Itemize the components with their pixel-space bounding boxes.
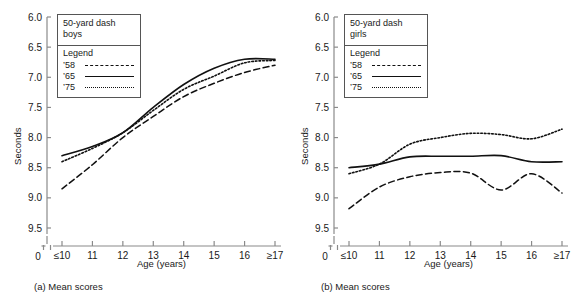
legend-key-75: ’75 <box>63 82 83 93</box>
y-tick-label: 8.0 <box>315 132 329 143</box>
y-tick-label: 8.5 <box>28 162 42 173</box>
panel-a: 6.06.57.07.58.08.59.09.50≤10111213141516… <box>0 0 287 304</box>
y-tick-label: 7.0 <box>28 72 42 83</box>
y-axis-label-b: Seconds <box>299 127 310 165</box>
legend-b: 50-yard dash girls Legend ’58 ’65 ’75 <box>344 14 428 98</box>
y-tick-label: 6.0 <box>315 12 329 23</box>
x-axis-label-b: Age (years) <box>305 258 574 269</box>
series-line-75 <box>349 129 562 174</box>
legend-key-65: ’65 <box>350 71 370 82</box>
figure-root: 6.06.57.07.58.08.59.09.50≤10111213141516… <box>0 0 574 304</box>
legend-swatch-dashed-line <box>85 65 134 66</box>
legend-key-58: ’58 <box>63 60 83 71</box>
series-line-65 <box>349 155 562 167</box>
legend-item-75: ’75 <box>63 82 135 93</box>
legend-swatch-solid-line <box>372 76 421 77</box>
series-line-58 <box>349 171 562 208</box>
legend-title-line2: boys <box>63 29 135 40</box>
y-tick-label: 8.5 <box>315 162 329 173</box>
legend-item-75: ’75 <box>350 82 422 93</box>
legend-item-58: ’58 <box>63 60 135 71</box>
legend-item-65: ’65 <box>63 71 135 82</box>
legend-body-a: Legend ’58 ’65 ’75 <box>58 46 140 97</box>
y-tick-label: 7.5 <box>28 102 42 113</box>
caption-b: (b) Mean scores <box>321 281 390 292</box>
caption-a: (a) Mean scores <box>34 281 103 292</box>
legend-swatch-dotted-line <box>85 87 134 88</box>
legend-heading: Legend <box>63 48 135 59</box>
legend-title-line2: girls <box>350 29 422 40</box>
legend-a: 50-yard dash boys Legend ’58 ’65 ’75 <box>57 14 141 98</box>
legend-title-b: 50-yard dash girls <box>345 15 427 46</box>
legend-title-line1: 50-yard dash <box>63 18 135 29</box>
y-tick-label: 6.5 <box>315 42 329 53</box>
legend-key-58: ’58 <box>350 60 370 71</box>
y-tick-label: 7.0 <box>315 72 329 83</box>
y-tick-label: 9.5 <box>28 223 42 234</box>
legend-heading: Legend <box>350 48 422 59</box>
legend-key-65: ’65 <box>63 71 83 82</box>
legend-swatch-dashed-line <box>372 65 421 66</box>
legend-title-a: 50-yard dash boys <box>58 15 140 46</box>
x-axis-label-a: Age (years) <box>18 258 305 269</box>
legend-item-58: ’58 <box>350 60 422 71</box>
y-tick-label: 6.0 <box>28 12 42 23</box>
y-tick-label: 9.5 <box>315 223 329 234</box>
legend-key-75: ’75 <box>350 82 370 93</box>
y-tick-label: 9.0 <box>28 192 42 203</box>
legend-swatch-solid-line <box>85 76 134 77</box>
y-tick-label: 7.5 <box>315 102 329 113</box>
legend-swatch-dotted-line <box>372 87 421 88</box>
y-tick-label: 8.0 <box>28 132 42 143</box>
y-tick-label: 9.0 <box>315 192 329 203</box>
panel-b: 6.06.57.07.58.08.59.09.50≤10111213141516… <box>287 0 574 304</box>
legend-title-line1: 50-yard dash <box>350 18 422 29</box>
legend-item-65: ’65 <box>350 71 422 82</box>
legend-body-b: Legend ’58 ’65 ’75 <box>345 46 427 97</box>
y-tick-label: 6.5 <box>28 42 42 53</box>
y-axis-label-a: Seconds <box>12 127 23 165</box>
